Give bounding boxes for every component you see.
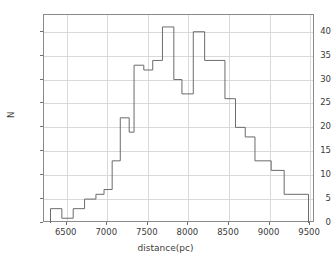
plot-area [43,14,314,222]
x-tick-label: 6500 [55,227,77,237]
x-tick-label: 8000 [177,227,199,237]
y-tick-mark [40,222,43,223]
x-tick-label: 9000 [258,227,280,237]
x-tick-label: 9500 [298,227,320,237]
x-tick-label: 8500 [217,227,239,237]
x-axis-label: distance(pc) [0,243,331,253]
x-tick-label: 7000 [95,227,117,237]
histogram-outline-path [50,27,308,223]
y-axis-label: N [6,112,16,118]
x-tick-label: 7500 [136,227,158,237]
histogram-step-outline [44,15,315,223]
histogram-figure: 0510152025303540 65007000750080008500900… [0,0,331,262]
